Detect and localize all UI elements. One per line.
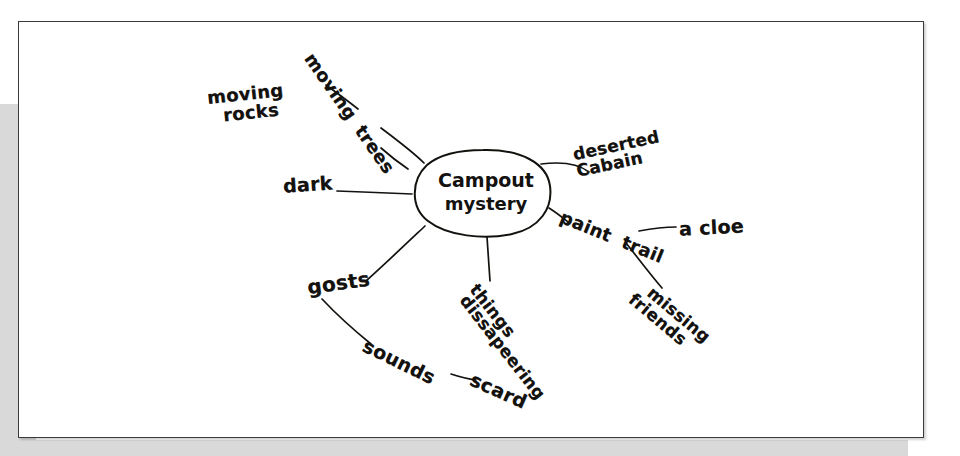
edge-center-things-dissapeering bbox=[487, 237, 490, 281]
node-label-dark-line1: dark bbox=[282, 171, 333, 196]
center-node-label-line1: Campout bbox=[424, 170, 548, 192]
center-node-label-line2: mystery bbox=[424, 194, 548, 215]
node-label-a-cloe-line1: a cloe bbox=[678, 214, 744, 239]
edge-paint-trail-a-cloe bbox=[639, 227, 676, 231]
center-node-label: Campout mystery bbox=[424, 170, 548, 215]
node-label-dark: dark bbox=[282, 173, 333, 196]
edge-gosts-sounds bbox=[322, 299, 371, 344]
node-label-moving-rocks: moving rocks bbox=[206, 81, 286, 127]
edge-center-gosts bbox=[366, 226, 425, 281]
node-label-a-cloe: a cloe bbox=[679, 216, 745, 239]
scanned-page: Campout mystery moving rocks moving tree… bbox=[0, 0, 960, 456]
edge-center-dark bbox=[337, 191, 412, 194]
